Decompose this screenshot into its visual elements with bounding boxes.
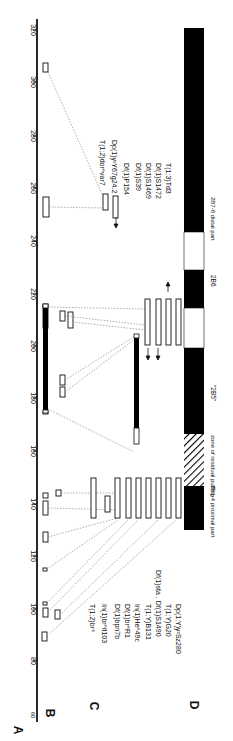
label-proximal: 2B3-4 proximal part xyxy=(210,485,216,538)
tick-label: 260 xyxy=(30,182,37,194)
label-distal: 2B7-8 distal part xyxy=(210,197,216,241)
row-b-black-bar xyxy=(43,304,48,412)
row-c-black-bar xyxy=(134,334,139,444)
label-2b5: "2B5" xyxy=(210,385,217,402)
label-rearrangement: Dp(1;Y)y²Sz280 xyxy=(174,604,182,654)
label-rearrangement: Df(1)S39 xyxy=(134,163,142,191)
tick-label: 200 xyxy=(30,340,37,352)
arrow-icons xyxy=(114,217,170,360)
label-rearrangement: In(1)br^lt103 xyxy=(100,604,108,643)
panel-label-a: A xyxy=(11,726,25,735)
label-rearrangement: Df(1)P154 xyxy=(122,163,130,195)
tick-label: 140 xyxy=(30,498,37,510)
tick-label: 120 xyxy=(30,550,37,562)
label-rearrangement: T(1;2)br⁴ xyxy=(88,604,96,632)
label-rearrangement: Df(1)br^R1 xyxy=(123,604,131,638)
label-rearrangement: T(1;Y)B131 xyxy=(144,604,152,640)
label-rearrangement: T(1;Y)G20 xyxy=(164,604,172,637)
panel-label-b: B xyxy=(43,709,57,718)
row-c-upper-segments xyxy=(103,194,181,345)
tick-label: 300 xyxy=(30,76,37,88)
rearrangement-labels-upper: T(1;2)dor^var7 Dp(1)y²Y67g24.2 Df(1)P154… xyxy=(98,140,172,199)
tick-label: 240 xyxy=(30,235,37,247)
tick-label: 60 xyxy=(30,712,36,719)
label-rearrangement: T(1;2)dor^var7 xyxy=(98,140,106,186)
label-rearrangement: In(1)He^49c xyxy=(133,604,141,642)
label-rearrangement: Dp(1)y²Y67g24.2 xyxy=(110,140,118,193)
tick-label: 280 xyxy=(30,130,37,142)
label-rearrangement: Df(1)sta , Df(1)S1490 xyxy=(154,570,162,637)
label-rearrangement: Df(1)S1469 xyxy=(144,163,152,199)
axis-a: 320 300 280 260 240 220 200 180 160 140 … xyxy=(30,19,37,722)
tick-label: 80 xyxy=(30,657,37,665)
panel-label-d: D xyxy=(187,701,201,710)
chromosome-map-figure: 320 300 280 260 240 220 200 180 160 140 … xyxy=(0,0,233,741)
label-2b6: 2B6 xyxy=(210,275,217,287)
rearrangement-labels-lower: T(1;2)br⁴ In(1)br^lt103 Df(1)bpn7b Df(1)… xyxy=(88,570,182,654)
tick-label: 320 xyxy=(30,24,37,36)
chromosome-region-labels: 2B7-8 distal part 2B6 "2B5" zone of resi… xyxy=(210,197,217,538)
tick-label: 100 xyxy=(30,603,37,615)
tick-label: 180 xyxy=(30,392,37,404)
tick-label: 160 xyxy=(30,445,37,457)
label-rearrangement: Df(1)bpn7b xyxy=(113,604,121,639)
row-c-lower-segments xyxy=(91,478,181,518)
panel-label-c: C xyxy=(87,702,101,711)
chromosome-band-bar xyxy=(184,28,204,530)
tick-label: 220 xyxy=(30,288,37,300)
label-rearrangement: Df(1)S1472 xyxy=(154,163,162,199)
label-rearrangement: T(1;3)Td3 xyxy=(164,163,172,194)
